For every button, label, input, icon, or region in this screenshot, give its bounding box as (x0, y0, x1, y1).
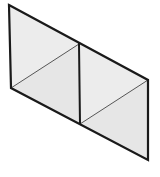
center-divider-line[interactable] (79, 44, 80, 124)
drawing-viewport (0, 0, 160, 177)
isometric-panel-drawing[interactable] (0, 0, 160, 177)
